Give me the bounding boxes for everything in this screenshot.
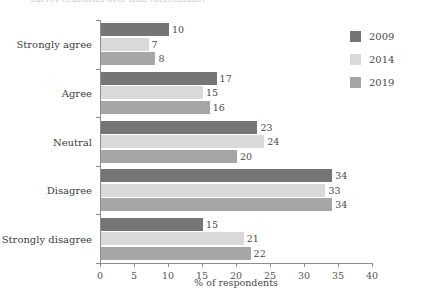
bar-value-label: 21 xyxy=(247,232,259,245)
bar-value-label: 34 xyxy=(335,198,347,211)
bar-2019-strongly-disagree xyxy=(101,247,251,260)
category-label-0: Strongly agree xyxy=(16,39,92,50)
bar-value-label: 33 xyxy=(328,184,340,197)
x-tick-35 xyxy=(338,263,339,267)
bar-2019-agree xyxy=(101,101,210,114)
bar-2009-strongly-disagree xyxy=(101,218,203,231)
bar-value-label: 10 xyxy=(172,23,184,36)
bar-value-label: 17 xyxy=(220,72,232,85)
x-tick-25 xyxy=(270,263,271,267)
y-tick-4 xyxy=(96,214,100,215)
legend-label-2014: 2014 xyxy=(369,54,394,65)
bar-2009-disagree xyxy=(101,169,332,182)
bar-value-label: 8 xyxy=(158,52,164,65)
bar-2009-neutral xyxy=(101,121,257,134)
x-axis-title: % of respondents xyxy=(100,277,372,288)
bar-2014-neutral xyxy=(101,135,264,148)
bar-value-label: 7 xyxy=(152,38,158,51)
category-label-4: Strongly disagree xyxy=(2,233,92,244)
bar-2019-strongly-agree xyxy=(101,52,155,65)
legend-swatch-icon-2014 xyxy=(350,54,361,65)
y-tick-2 xyxy=(96,117,100,118)
legend: 200920142019 xyxy=(350,26,394,95)
legend-item-2014[interactable]: 2014 xyxy=(350,49,394,69)
bar-2009-strongly-agree xyxy=(101,23,169,36)
bar-value-label: 34 xyxy=(335,169,347,182)
bar-2019-disagree xyxy=(101,198,332,211)
y-tick-1 xyxy=(96,69,100,70)
y-tick-3 xyxy=(96,166,100,167)
legend-item-2009[interactable]: 2009 xyxy=(350,26,394,46)
bar-2009-agree xyxy=(101,72,217,85)
category-label-2: Neutral xyxy=(53,136,92,147)
y-tick-0 xyxy=(96,20,100,21)
cut-off-chart-title: Survey responses over time (percentage) xyxy=(30,0,260,2)
x-tick-15 xyxy=(202,263,203,267)
x-tick-10 xyxy=(168,263,169,267)
plot-area: 0510152025303540 10781715162324203433341… xyxy=(100,20,372,263)
bar-value-label: 20 xyxy=(240,150,252,163)
legend-label-2009: 2009 xyxy=(369,31,394,42)
bar-2019-neutral xyxy=(101,150,237,163)
x-tick-5 xyxy=(134,263,135,267)
bar-value-label: 15 xyxy=(206,86,218,99)
bar-2014-strongly-agree xyxy=(101,38,149,51)
bar-value-label: 23 xyxy=(260,121,272,134)
bar-value-label: 15 xyxy=(206,218,218,231)
x-tick-40 xyxy=(372,263,373,267)
bar-2014-agree xyxy=(101,86,203,99)
bar-value-label: 16 xyxy=(213,101,225,114)
y-tick-end xyxy=(96,263,100,264)
legend-item-2019[interactable]: 2019 xyxy=(350,72,394,92)
bar-2014-strongly-disagree xyxy=(101,232,244,245)
category-label-1: Agree xyxy=(62,87,92,98)
x-tick-0 xyxy=(100,263,101,267)
x-tick-30 xyxy=(304,263,305,267)
bar-value-label: 22 xyxy=(254,247,266,260)
legend-swatch-icon-2009 xyxy=(350,31,361,42)
bar-value-label: 24 xyxy=(267,135,279,148)
category-label-3: Disagree xyxy=(47,185,92,196)
bar-2014-disagree xyxy=(101,184,325,197)
x-tick-20 xyxy=(236,263,237,267)
legend-label-2019: 2019 xyxy=(369,77,394,88)
bar-chart: Survey responses over time (percentage) … xyxy=(0,0,431,302)
legend-swatch-icon-2019 xyxy=(350,77,361,88)
